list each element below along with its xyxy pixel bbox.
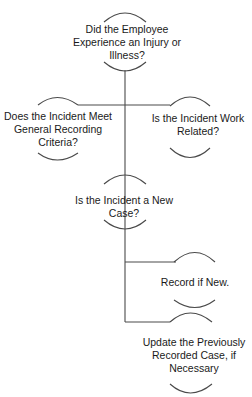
arc-top-general-bottom: [38, 153, 78, 160]
node-update-previous: Update the Previously Recorded Case, if …: [142, 336, 246, 375]
arc-bottom-injury: [104, 62, 146, 71]
node-injury: Did the Employee Experience an Injury or…: [72, 23, 182, 62]
arc-top-work: [170, 97, 210, 106]
node-general-criteria: Does the Incident Meet General Recording…: [2, 110, 114, 149]
node-record-if-new: Record if New.: [150, 276, 240, 289]
arc-top-injury: [104, 13, 146, 22]
node-new-case: Is the Incident a New Case?: [74, 194, 174, 220]
node-work-related: Is the Incident Work Related?: [148, 112, 248, 138]
arc-top-general: [38, 98, 78, 106]
arc-top-record: [174, 253, 215, 263]
arc-bottom-update: [170, 384, 212, 393]
arc-top-update: [170, 313, 212, 322]
arc-bottom-work: [170, 148, 210, 158]
arc-bottom-record: [174, 300, 215, 308]
